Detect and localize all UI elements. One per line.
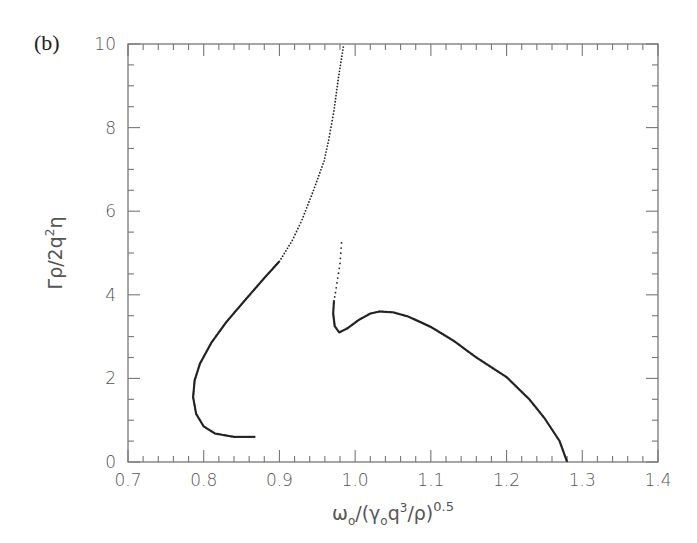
y-tick-label: 10	[94, 34, 116, 54]
plot-frame	[128, 44, 658, 462]
x-tick-label: 1.0	[342, 470, 369, 490]
tick-labels: 0.70.80.91.01.11.21.31.40246810	[94, 34, 671, 490]
x-tick-label: 0.8	[190, 470, 217, 490]
chart: 0.70.80.91.01.11.21.31.40246810 ωo/(γoq3…	[0, 0, 697, 543]
x-tick-label: 0.7	[114, 470, 141, 490]
y-tick-label: 4	[105, 285, 116, 305]
x-tick-label: 0.9	[266, 470, 293, 490]
y-axis-label: Γρ/2q2η	[43, 217, 66, 290]
axis-ticks	[128, 44, 658, 462]
y-tick-label: 2	[105, 368, 116, 388]
x-tick-label: 1.4	[644, 470, 671, 490]
x-tick-label: 1.3	[569, 470, 596, 490]
x-tick-label: 1.1	[417, 470, 444, 490]
series-2	[332, 242, 568, 462]
y-tick-label: 0	[105, 452, 116, 472]
y-tick-label: 8	[105, 118, 116, 138]
x-tick-label: 1.2	[493, 470, 520, 490]
series-1	[192, 46, 344, 438]
x-axis-label: ωo/(γoq3/ρ)0.5	[332, 499, 454, 528]
y-tick-label: 6	[105, 201, 116, 221]
data-series	[192, 46, 568, 462]
